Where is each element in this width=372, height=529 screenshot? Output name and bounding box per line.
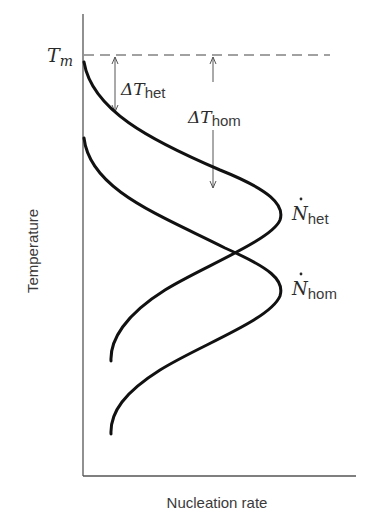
delta-het-label: ΔThet — [120, 79, 166, 101]
svg-text:Nhom: Nhom — [291, 278, 337, 302]
delta-hom-label: ΔThom — [187, 107, 241, 129]
curve-het-label: Nhet — [291, 198, 329, 227]
curve-het — [84, 62, 281, 361]
y-axis-label: Temperature — [24, 209, 41, 293]
melting-temp-label: Tm — [47, 44, 73, 69]
x-axis-label: Nucleation rate — [167, 494, 268, 511]
curve-hom — [84, 138, 281, 434]
nucleation-diagram: Tm ΔThet ΔThom Nhet Nhom Nucleation rate… — [0, 0, 372, 529]
svg-text:Nhet: Nhet — [291, 203, 329, 227]
curve-hom-label: Nhom — [291, 273, 337, 302]
delta-het-arrow — [112, 57, 118, 112]
